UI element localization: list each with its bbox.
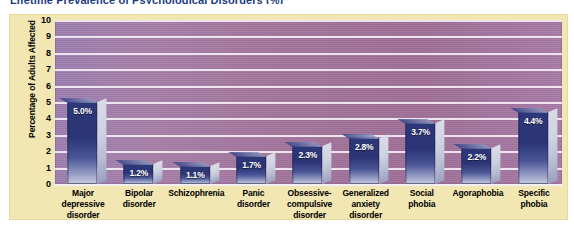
y-axis-tick: 10: [41, 16, 51, 25]
bar-slot: 2.2%: [449, 20, 505, 184]
category-label-line: disorder: [56, 210, 110, 221]
category-label-line: depressive: [56, 199, 110, 210]
bar[interactable]: 2.2%: [462, 148, 492, 184]
bar-face: 1.7%: [237, 156, 267, 184]
x-axis-category-label: Obsessive-compulsivedisorder: [281, 188, 337, 221]
bar-face: 5.0%: [68, 102, 98, 184]
plot-area: 5.0%1.2%1.1%1.7%2.3%2.8%3.7%2.2%4.4%: [55, 20, 562, 184]
bar[interactable]: 1.7%: [237, 156, 267, 184]
bar-top-face: [60, 98, 98, 103]
y-axis-tick: 6: [46, 81, 51, 90]
bar-slot: 3.7%: [393, 20, 449, 184]
category-label-line: phobia: [395, 199, 449, 210]
category-label-line: Specific: [507, 188, 561, 199]
category-label-line: Generalized: [339, 188, 393, 199]
y-axis-tick: 1: [46, 163, 51, 172]
figure-title: Lifetime Prevalence of Psychological Dis…: [10, 0, 350, 4]
y-axis-tick: 3: [46, 130, 51, 139]
bar-side-face: [154, 161, 163, 184]
bar-side-face: [548, 108, 557, 184]
bar[interactable]: 4.4%: [518, 112, 548, 184]
category-label-line: disorder: [282, 210, 336, 221]
x-axis-category-label: Specificphobia: [506, 188, 562, 221]
category-label-line: Major: [56, 188, 110, 199]
bar-value-label: 3.7%: [406, 127, 436, 137]
category-label-line: Panic: [226, 188, 280, 199]
bar-value-label: 2.8%: [349, 142, 379, 152]
gridline: [55, 184, 562, 186]
x-axis-category-label: Socialphobia: [394, 188, 450, 221]
y-axis-tick: 7: [46, 65, 51, 74]
x-axis-category-label: Majordepressivedisorder: [55, 188, 111, 221]
y-axis-tick: 4: [46, 114, 51, 123]
y-axis-tick: 8: [46, 48, 51, 57]
bar-side-face: [267, 152, 276, 184]
x-axis-category-label: Generalizedanxietydisorder: [338, 188, 394, 221]
bar-value-label: 2.3%: [293, 150, 323, 160]
bar-slot: 1.7%: [224, 20, 280, 184]
bar-face: 2.8%: [349, 138, 379, 184]
bar-face: 4.4%: [518, 112, 548, 184]
category-label-line: Social: [395, 188, 449, 199]
bar-slot: 1.2%: [111, 20, 167, 184]
bar-face: 2.2%: [462, 148, 492, 184]
bar[interactable]: 1.2%: [124, 164, 154, 184]
bar[interactable]: 1.1%: [180, 166, 210, 184]
bar-top-face: [116, 160, 154, 165]
x-axis-category-label: Agoraphobia: [450, 188, 506, 221]
category-label-line: disorder: [339, 210, 393, 221]
bar-side-face: [98, 98, 107, 184]
bar-value-label: 4.4%: [518, 116, 548, 126]
bar-side-face: [323, 143, 332, 184]
category-label-line: Schizophrenia: [168, 188, 224, 199]
category-label-line: disorder: [112, 199, 166, 210]
bar-side-face: [492, 144, 501, 184]
bar[interactable]: 2.8%: [349, 138, 379, 184]
bar-face: 2.3%: [293, 146, 323, 184]
bar-value-label: 1.1%: [180, 170, 210, 180]
bar-side-face: [379, 134, 388, 184]
bar-series: 5.0%1.2%1.1%1.7%2.3%2.8%3.7%2.2%4.4%: [55, 20, 562, 184]
category-label-line: phobia: [507, 199, 561, 210]
bar-value-label: 5.0%: [68, 106, 98, 116]
bar-face: 3.7%: [406, 123, 436, 184]
category-label-line: Obsessive-: [282, 188, 336, 199]
bar-value-label: 1.2%: [124, 168, 154, 178]
y-axis-tick: 5: [46, 98, 51, 107]
bar-slot: 4.4%: [506, 20, 562, 184]
bar-top-face: [510, 108, 548, 113]
bar-top-face: [341, 134, 379, 139]
bar-slot: 1.1%: [168, 20, 224, 184]
bar-top-face: [285, 142, 323, 147]
bar-top-face: [454, 144, 492, 149]
category-label-line: disorder: [226, 199, 280, 210]
bar[interactable]: 5.0%: [68, 102, 98, 184]
bar-value-label: 1.7%: [237, 160, 267, 170]
bar-top-face: [398, 119, 436, 124]
bar[interactable]: 2.3%: [293, 146, 323, 184]
y-axis-tick: 0: [46, 180, 51, 189]
x-axis-category-label: Bipolardisorder: [111, 188, 167, 221]
bar[interactable]: 3.7%: [406, 123, 436, 184]
bar-slot: 2.8%: [337, 20, 393, 184]
bar-slot: 2.3%: [280, 20, 336, 184]
category-label-line: anxiety: [339, 199, 393, 210]
category-label-line: Bipolar: [112, 188, 166, 199]
x-axis-category-labels: MajordepressivedisorderBipolardisorderSc…: [55, 188, 562, 221]
y-axis-tick: 9: [46, 32, 51, 41]
bar-face: 1.1%: [180, 166, 210, 184]
y-axis-tick: 2: [46, 147, 51, 156]
x-axis-category-label: Schizophrenia: [167, 188, 225, 221]
chart-panel: Percentage of Adults Affected 1098765432…: [9, 14, 568, 220]
bar-top-face: [229, 152, 267, 157]
category-label-line: Agoraphobia: [451, 188, 505, 199]
bar-side-face: [436, 120, 445, 184]
bar-slot: 5.0%: [55, 20, 111, 184]
bar-face: 1.2%: [124, 164, 154, 184]
category-label-line: compulsive: [282, 199, 336, 210]
y-axis-tick-labels: 109876543210: [35, 20, 51, 184]
x-axis-category-label: Panicdisorder: [225, 188, 281, 221]
bar-value-label: 2.2%: [462, 152, 492, 162]
bar-top-face: [172, 162, 210, 167]
bar-side-face: [210, 162, 219, 184]
